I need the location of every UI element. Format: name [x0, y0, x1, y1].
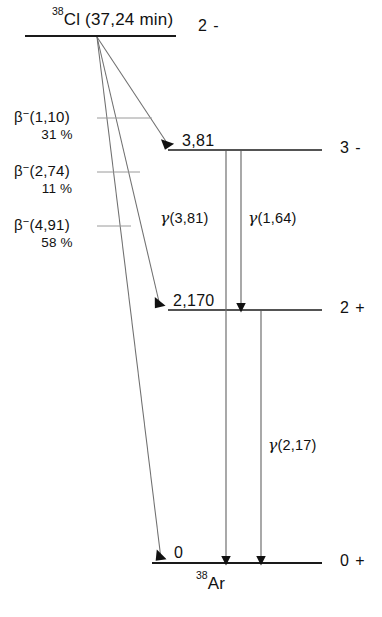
gamma-energy-381: (3,81) [169, 210, 208, 226]
gamma-label-217: γ(2,17) [268, 437, 317, 453]
beta-branch-label-3: β−(4,91) [14, 216, 70, 233]
beta-intensity-1: 31 % [14, 128, 100, 142]
level-spin-parity-ground: 0 + [340, 553, 366, 570]
gamma-energy-164: (1,64) [257, 210, 296, 226]
beta-intensity-2: 11 % [14, 182, 100, 196]
daughter-mass-number: 38 [196, 569, 208, 581]
daughter-nuclide-label: 38Ar [196, 570, 225, 593]
beta-intensity-3: 58 % [14, 236, 100, 250]
beta-energy-1: (1,10) [29, 108, 69, 125]
beta-transition-line-1 [97, 37, 169, 146]
beta-energy-3: (4,91) [29, 216, 69, 233]
gamma-energy-217: (2,17) [277, 437, 316, 453]
level-energy-label-ground: 0 [174, 545, 183, 562]
beta-symbol-1: β [14, 108, 23, 125]
daughter-element-symbol: Ar [208, 574, 225, 593]
beta-symbol-3: β [14, 216, 23, 233]
parent-element-symbol: Cl [64, 10, 80, 29]
beta-branch-label-1: β−(1,10) [14, 108, 70, 125]
parent-mass-number: 38 [52, 5, 64, 17]
level-spin-parity-2170: 2 + [340, 300, 366, 317]
beta-energy-2: (2,74) [29, 162, 69, 179]
parent-half-life: (37,24 min) [85, 10, 173, 29]
level-spin-parity-381: 3 - [340, 140, 362, 157]
beta-transition-line-3 [97, 37, 161, 559]
decay-scheme-diagram: 38Cl (37,24 min) 2 - β−(1,10) 31 % β−(2,… [0, 0, 382, 617]
beta-branch-label-2: β−(2,74) [14, 162, 70, 179]
gamma-label-164: γ(1,64) [248, 210, 297, 226]
parent-nuclide-label: 38Cl (37,24 min) [52, 6, 173, 29]
level-energy-label-381: 3,81 [182, 133, 214, 150]
beta-symbol-2: β [14, 162, 23, 179]
gamma-label-381: γ(3,81) [160, 210, 209, 226]
level-energy-label-2170: 2,170 [173, 293, 215, 310]
parent-spin-parity: 2 - [198, 18, 220, 35]
